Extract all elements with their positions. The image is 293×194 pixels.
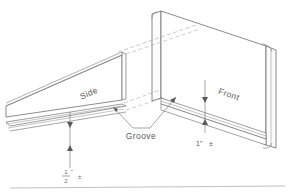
technical-drawing-canvas: Side Front (0, 0, 293, 194)
front-dimension-tolerance: ± (209, 140, 213, 147)
side-dimension-tolerance: ± (78, 174, 82, 180)
side-panel-group: Side (6, 52, 126, 131)
side-dimension-arrow-bottom (67, 145, 73, 151)
side-dimension-arrow-top (67, 122, 73, 128)
front-panel-group: Front (152, 11, 276, 148)
side-dimension-unit: " (71, 169, 73, 175)
side-dimension-numerator: 1 (64, 169, 68, 175)
side-dimension-denominator: 2 (64, 178, 68, 184)
side-panel-end-cap (122, 52, 126, 100)
front-panel-left-edge (152, 11, 161, 101)
bottom-divider-rule (10, 186, 285, 188)
groove-label: Groove (126, 131, 156, 141)
front-dimension-value: 1" (196, 140, 203, 147)
side-dimension-group: 1 2 " ± (62, 112, 82, 184)
